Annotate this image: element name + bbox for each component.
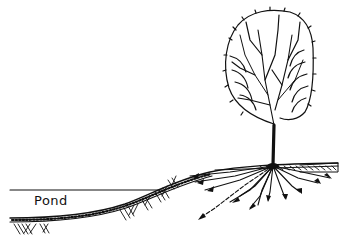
tree-canopy: [223, 7, 316, 125]
tree-trunk: [273, 125, 274, 165]
pond-label: Pond: [34, 193, 68, 208]
root-arrowheads: [192, 173, 332, 220]
illustration-canvas: Pond: [0, 0, 348, 248]
tree-pond-drawing: [0, 0, 348, 248]
